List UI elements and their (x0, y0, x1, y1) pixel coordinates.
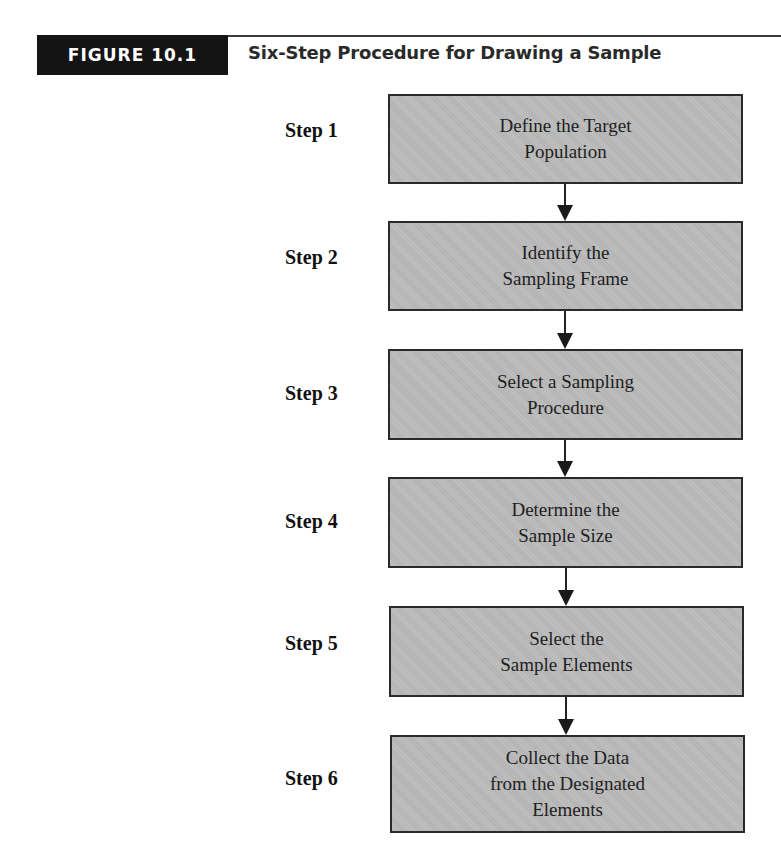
step-label-1: Step 1 (285, 119, 365, 142)
arrow-down-icon (558, 568, 574, 606)
step-box-6: Collect the Data from the Designated Ele… (390, 735, 745, 833)
arrow-down-icon (558, 697, 574, 735)
figure-title: Six-Step Procedure for Drawing a Sample (248, 42, 661, 63)
arrow-down-icon (557, 440, 573, 477)
step-text-1: Define the Target Population (500, 113, 632, 165)
arrow-down-icon (557, 311, 573, 349)
step-label-6: Step 6 (285, 767, 365, 790)
step-label-4: Step 4 (285, 510, 365, 533)
step-text-3: Select a Sampling Procedure (497, 369, 634, 421)
step-box-2: Identify the Sampling Frame (388, 221, 743, 311)
step-text-2: Identify the Sampling Frame (502, 240, 628, 292)
step-box-1: Define the Target Population (388, 94, 743, 184)
step-text-4: Determine the Sample Size (511, 497, 619, 549)
step-box-4: Determine the Sample Size (388, 477, 743, 568)
step-text-6: Collect the Data from the Designated Ele… (490, 745, 645, 823)
step-box-5: Select the Sample Elements (389, 606, 744, 697)
arrow-down-icon (557, 184, 573, 221)
step-label-5: Step 5 (285, 632, 365, 655)
step-label-2: Step 2 (285, 246, 365, 269)
figure-badge: FIGURE 10.1 (37, 35, 228, 75)
step-label-3: Step 3 (285, 382, 365, 405)
step-text-5: Select the Sample Elements (500, 626, 632, 678)
step-box-3: Select a Sampling Procedure (388, 349, 743, 440)
